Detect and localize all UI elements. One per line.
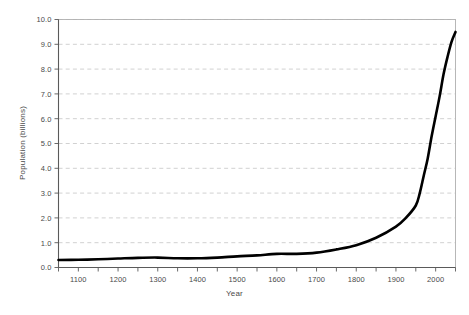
- svg-text:5.0: 5.0: [41, 139, 52, 148]
- gridlines-group: [59, 20, 456, 243]
- svg-text:8.0: 8.0: [41, 65, 52, 74]
- population-chart-figure: 1100120013001400150016001700180019002000…: [0, 0, 469, 315]
- svg-text:1700: 1700: [308, 275, 325, 284]
- svg-text:1.0: 1.0: [41, 239, 52, 248]
- svg-text:1600: 1600: [268, 275, 285, 284]
- y-axis-ticks: [55, 20, 59, 268]
- svg-text:1200: 1200: [110, 275, 127, 284]
- svg-text:10.0: 10.0: [37, 15, 52, 24]
- y-axis-title: Population (billions): [18, 28, 32, 258]
- svg-text:0.0: 0.0: [41, 263, 52, 272]
- x-axis-ticks: [59, 268, 456, 272]
- svg-text:3.0: 3.0: [41, 189, 52, 198]
- svg-text:1500: 1500: [229, 275, 246, 284]
- svg-text:1800: 1800: [348, 275, 365, 284]
- svg-text:1300: 1300: [149, 275, 166, 284]
- svg-text:1900: 1900: [387, 275, 404, 284]
- svg-text:2000: 2000: [427, 275, 444, 284]
- x-axis-tick-labels: 1100120013001400150016001700180019002000: [70, 275, 444, 284]
- y-axis-tick-labels: 0.01.02.03.04.05.06.07.08.09.010.0: [37, 15, 52, 272]
- x-axis-title: Year: [0, 289, 469, 298]
- svg-text:4.0: 4.0: [41, 164, 52, 173]
- population-line-series: [59, 32, 456, 260]
- svg-text:6.0: 6.0: [41, 115, 52, 124]
- chart-canvas: 1100120013001400150016001700180019002000…: [0, 0, 469, 315]
- svg-text:7.0: 7.0: [41, 90, 52, 99]
- svg-text:9.0: 9.0: [41, 40, 52, 49]
- svg-text:1400: 1400: [189, 275, 206, 284]
- svg-text:2.0: 2.0: [41, 214, 52, 223]
- svg-text:1100: 1100: [70, 275, 87, 284]
